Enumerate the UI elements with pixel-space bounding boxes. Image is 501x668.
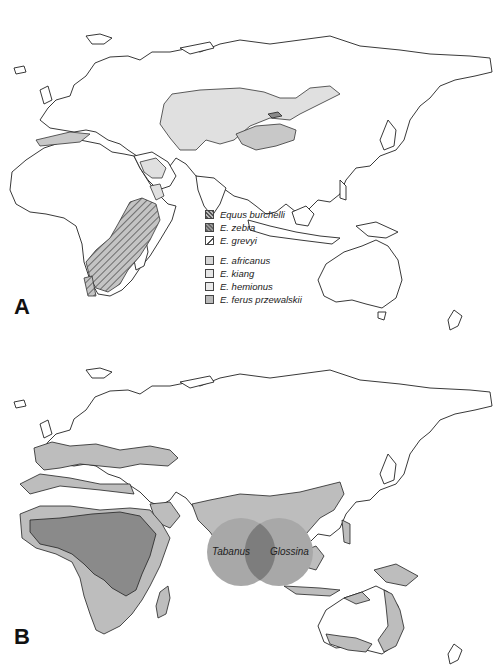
new-zealand xyxy=(448,644,462,664)
new-guinea xyxy=(356,222,398,238)
britain xyxy=(40,86,52,104)
legend-item: E. grevyi xyxy=(205,234,302,247)
species-legend: Equus burchelli E. zebra E. grevyi E. af… xyxy=(205,208,302,306)
panel-b: Tabanus Glossina B xyxy=(0,334,501,668)
iceland xyxy=(14,66,26,74)
map-panel-b xyxy=(0,334,501,668)
britain xyxy=(40,420,52,438)
legend-item: E. ferus przewalskii xyxy=(205,293,302,306)
legend-label: E. ferus przewalskii xyxy=(220,294,302,305)
legend-label: E. grevyi xyxy=(220,235,257,246)
iceland xyxy=(14,400,26,408)
tasmania xyxy=(378,312,386,320)
panel-a: Equus burchelli E. zebra E. grevyi E. af… xyxy=(0,0,501,334)
legend-item: Equus burchelli xyxy=(205,208,302,221)
madagascar xyxy=(156,586,170,618)
venn-label-glossina: Glossina xyxy=(270,546,309,557)
panel-label-b: B xyxy=(14,624,30,650)
venn-label-tabanus: Tabanus xyxy=(212,546,250,557)
range-tabanus-new-guinea xyxy=(374,564,418,586)
solid-swatch-icon xyxy=(205,269,214,278)
svalbard xyxy=(86,368,112,378)
hatched-swatch-icon xyxy=(205,223,214,232)
new-zealand xyxy=(448,310,462,330)
legend-label: E. africanus xyxy=(220,255,270,266)
solid-swatch-icon xyxy=(205,295,214,304)
solid-swatch-icon xyxy=(205,256,214,265)
hatched-swatch-icon xyxy=(205,210,214,219)
solid-swatch-icon xyxy=(205,282,214,291)
panel-label-a: A xyxy=(14,294,30,320)
legend-label: E. hemionus xyxy=(220,281,273,292)
range-tabanus-philippines xyxy=(342,520,350,544)
hatched-swatch-icon xyxy=(205,236,214,245)
legend-item: E. africanus xyxy=(205,254,302,267)
svalbard xyxy=(86,34,112,44)
legend-label: Equus burchelli xyxy=(220,209,285,220)
australia xyxy=(318,240,402,308)
legend-label: E. kiang xyxy=(220,268,254,279)
legend-item: E. hemionus xyxy=(205,280,302,293)
legend-item: E. zebra xyxy=(205,221,302,234)
legend-item: E. kiang xyxy=(205,267,302,280)
legend-label: E. zebra xyxy=(220,222,255,233)
